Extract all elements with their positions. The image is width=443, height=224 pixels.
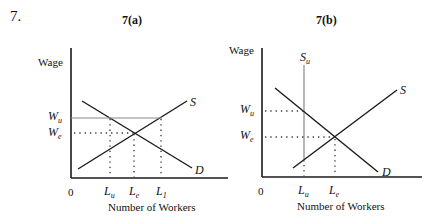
panel-b-demand-curve bbox=[275, 88, 378, 172]
panel-b-supply-curve bbox=[293, 90, 397, 168]
panel-a-supply-curve bbox=[78, 101, 187, 169]
panel-a-demand-curve bbox=[82, 101, 192, 168]
panel-b-graph bbox=[262, 48, 422, 177]
diagram-canvas bbox=[0, 0, 443, 224]
panel-a-graph bbox=[71, 48, 228, 178]
